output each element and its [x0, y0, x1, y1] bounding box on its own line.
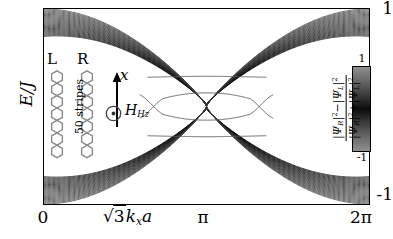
num-sup-2: 2	[331, 77, 339, 81]
den-sup-2: 2	[347, 77, 355, 81]
colorbar-denominator: |ΨR|2+|ΨL|2	[346, 75, 360, 141]
x-tick-two-pi: 2π	[344, 207, 378, 227]
x-label-a: a	[142, 206, 152, 226]
colorbar-label-rotated: |ΨR|2−|ΨL|2 |ΨR|2+|ΨL|2	[332, 75, 360, 141]
den-psi-1: Ψ	[346, 126, 359, 136]
num-sub-2: L	[337, 85, 345, 90]
inset-label-left-edge: L	[47, 50, 57, 68]
x-tick-zero: 0	[30, 207, 56, 227]
num-operator: −	[331, 103, 344, 112]
inset-axis-arrow-label: x	[120, 66, 128, 84]
magnetic-field-out-of-plane-icon	[105, 105, 122, 122]
den-sub-2: L	[352, 85, 360, 90]
den-sub-1: R	[352, 120, 360, 125]
colorbar-fraction: |ΨR|2−|ΨL|2 |ΨR|2+|ΨL|2	[332, 75, 360, 141]
honeycomb-ribbon-left-icon	[46, 70, 68, 162]
x-label-radicand: 3	[113, 205, 126, 226]
inset-schematic: L R 50 stripes x HHz	[44, 52, 164, 164]
den-psi-2: Ψ	[346, 90, 359, 100]
num-psi-1: Ψ	[331, 126, 344, 136]
inset-field-subscript: Hz	[137, 109, 149, 119]
colorbar-numerator: |ΨR|2−|ΨL|2	[332, 75, 347, 141]
num-psi-2: Ψ	[331, 90, 344, 100]
den-sup-1: 2	[347, 112, 355, 116]
inset-field-symbol-H: H	[125, 102, 137, 118]
x-axis-label: √3kxa	[72, 205, 182, 227]
den-operator: +	[346, 103, 359, 112]
inset-label-right-edge: R	[77, 50, 88, 68]
x-tick-pi: π	[190, 207, 216, 227]
num-sup-1: 2	[331, 112, 339, 116]
inset-field-label: HHz	[125, 102, 149, 119]
colorbar-label: |ΨR|2−|ΨL|2 |ΨR|2+|ΨL|2	[296, 58, 393, 158]
y-axis-label: E/J	[16, 64, 36, 124]
x-label-k: k	[126, 206, 136, 226]
inset-stripes-label: 50 stripes	[73, 70, 86, 144]
num-sub-1: R	[337, 120, 345, 125]
figure-root: E/J 1 -1 0 π 2π √3kxa L R 50 stripes x H…	[0, 0, 393, 239]
